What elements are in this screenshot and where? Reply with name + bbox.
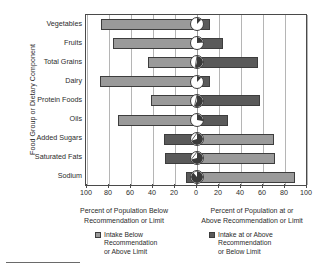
legend-label: Intake at or AboveRecommendationor Below… <box>218 231 273 256</box>
x-axis-tick-label: 40 <box>229 188 251 197</box>
x-axis-label-right: Percent of Population at or Above Recomm… <box>188 206 316 228</box>
legend-label-line: Intake at or Above <box>218 231 273 239</box>
category-label: Dairy <box>6 77 82 85</box>
x-axis-tick-label: 60 <box>251 188 273 197</box>
x-axis-tick-label: 0 <box>185 188 207 197</box>
plot-area <box>85 14 307 186</box>
pie-marker-icon <box>190 75 204 89</box>
category-label: Oils <box>6 115 82 123</box>
bar-row <box>86 72 306 91</box>
footer-divider <box>6 262 80 263</box>
x-axis-label-left-line2: Recommendation or Limit <box>60 216 188 226</box>
x-axis-tick-label: 20 <box>163 188 185 197</box>
pie-marker-icon <box>190 94 204 108</box>
gridline-10 <box>307 15 308 185</box>
bar-row <box>86 149 306 168</box>
bar-segment-right <box>197 57 258 68</box>
legend-label-line: or Above Limit <box>104 248 157 256</box>
bar-row <box>86 130 306 149</box>
x-axis-tick-label: 80 <box>273 188 295 197</box>
bar-segment-right <box>197 134 274 145</box>
bar-row <box>86 53 306 72</box>
bar-segment-right <box>197 95 260 106</box>
bar-segment-right <box>197 153 275 164</box>
x-axis-label-left-line1: Percent of Population Below <box>60 206 188 216</box>
x-axis-tick-label: 60 <box>119 188 141 197</box>
chart-legend: Intake BelowRecommendationor Above Limit… <box>95 231 315 256</box>
legend-label: Intake BelowRecommendationor Above Limit <box>104 231 157 256</box>
x-axis-tick-label: 100 <box>75 188 97 197</box>
category-label: Saturated Fats <box>6 153 82 161</box>
legend-label-line: Recommendation <box>218 239 273 247</box>
legend-item: Intake at or AboveRecommendationor Below… <box>209 231 305 256</box>
legend-swatch-icon <box>209 232 215 238</box>
bar-row <box>86 91 306 110</box>
x-axis-tick-label: 40 <box>141 188 163 197</box>
pie-marker-icon <box>190 132 204 146</box>
bar-segment-right <box>197 172 295 183</box>
bar-segment-left <box>118 115 197 126</box>
legend-item: Intake BelowRecommendationor Above Limit <box>95 231 191 256</box>
x-axis-tick-label: 80 <box>97 188 119 197</box>
bar-row <box>86 111 306 130</box>
pie-marker-icon <box>190 151 204 165</box>
dietary-intake-diverging-bar-chart: Food Group or Dietary Component Vegetabl… <box>0 0 316 270</box>
x-axis-label-group: Percent of Population Below Recommendati… <box>60 206 316 228</box>
bar-segment-left <box>101 19 197 30</box>
bar-segment-left <box>113 38 197 49</box>
legend-swatch-icon <box>95 232 101 238</box>
bar-row <box>86 34 306 53</box>
x-axis-tick-label: 20 <box>207 188 229 197</box>
category-label: Protein Foods <box>6 96 82 104</box>
x-axis-tick-list: 10080604020020406080100 <box>85 188 307 198</box>
legend-label-line: Intake Below <box>104 231 157 239</box>
legend-label-line: Recommendation <box>104 239 157 247</box>
category-label: Total Grains <box>6 58 82 66</box>
x-axis-label-left: Percent of Population Below Recommendati… <box>60 206 188 228</box>
bar-row <box>86 15 306 34</box>
pie-marker-icon <box>190 170 204 184</box>
category-label-list: VegetablesFruitsTotal GrainsDairyProtein… <box>6 14 82 186</box>
category-label: Sodium <box>6 172 82 180</box>
category-label: Vegetables <box>6 20 82 28</box>
category-label: Fruits <box>6 39 82 47</box>
x-axis-label-right-line1: Percent of Population at or <box>188 206 316 216</box>
category-label: Added Sugars <box>6 134 82 142</box>
x-axis-tick-label: 100 <box>295 188 316 197</box>
bar-segment-left <box>100 76 197 87</box>
legend-label-line: or Below Limit <box>218 248 273 256</box>
x-axis-label-right-line2: Above Recommendation or Limit <box>188 216 316 226</box>
pie-marker-icon <box>190 113 204 127</box>
